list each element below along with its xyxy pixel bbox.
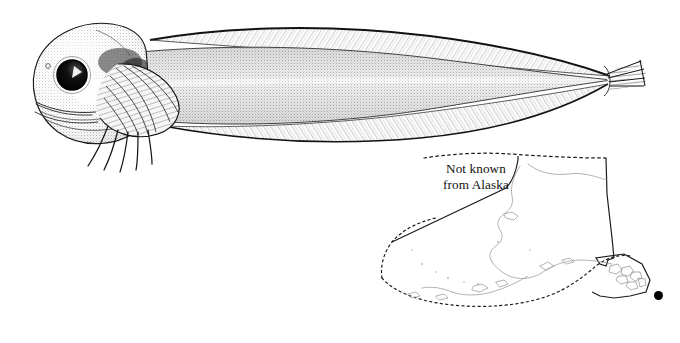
map-note: Not known from Alaska [430, 161, 522, 192]
eez-boundary-south [381, 218, 436, 278]
border-east-line [606, 158, 614, 258]
caudal-fin [604, 60, 646, 96]
map-note-line-1: Not known [430, 161, 522, 177]
panhandle-islands [609, 264, 646, 290]
map-note-line-2: from Alaska [430, 177, 522, 193]
eez-boundary-arc [382, 255, 630, 306]
aleutian-speckles [411, 241, 531, 285]
plate-canvas: Not known from Alaska [0, 0, 680, 343]
occurrence-dot [654, 291, 663, 300]
eez-boundary-dotted [424, 153, 606, 158]
